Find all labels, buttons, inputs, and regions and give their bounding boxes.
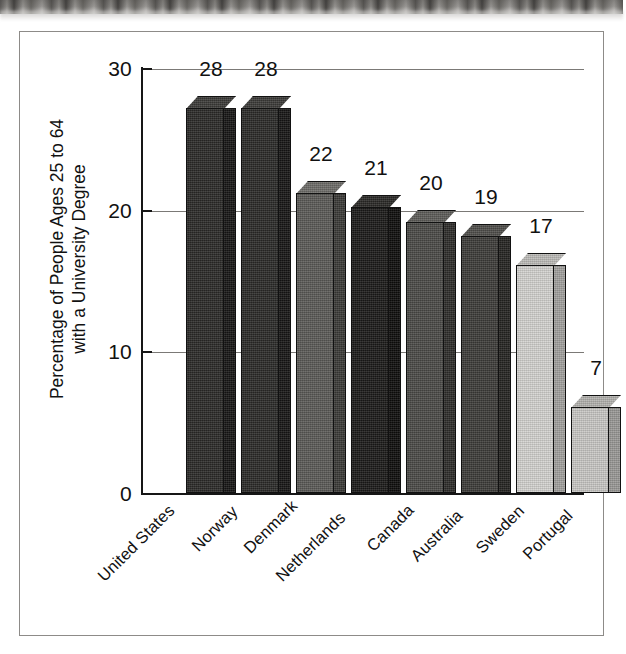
bar-side-face xyxy=(554,265,566,493)
bar-chart-plot-area: 30 20 10 0 Percentage of People Ages 25 … xyxy=(20,32,605,637)
y-tick-20 xyxy=(141,210,152,212)
bar-front-face xyxy=(571,407,609,493)
bar-front-face xyxy=(351,207,389,493)
bar-front-face xyxy=(296,193,334,493)
y-axis-title: Percentage of People Ages 25 to 64 with … xyxy=(46,59,90,459)
bar-norway xyxy=(241,32,291,493)
bar-front-face xyxy=(241,108,279,493)
bar-side-face xyxy=(334,193,346,493)
category-label-canada: Canada xyxy=(363,501,418,556)
category-label-denmark: Denmark xyxy=(240,496,301,557)
bar-sweden xyxy=(516,32,566,493)
bar-side-face xyxy=(224,108,236,493)
bar-portugal xyxy=(571,32,621,493)
y-axis-line xyxy=(141,67,143,495)
bar-value-united-states: 28 xyxy=(181,58,241,79)
bar-side-face xyxy=(389,207,401,493)
bar-value-sweden: 17 xyxy=(511,215,571,236)
bar-value-australia: 19 xyxy=(456,186,516,207)
bar-value-norway: 28 xyxy=(236,58,296,79)
y-tick-30 xyxy=(141,68,152,70)
x-axis-line xyxy=(141,493,584,495)
y-tick-10 xyxy=(141,351,152,353)
bar-value-portugal: 7 xyxy=(566,357,626,378)
bar-front-face xyxy=(461,236,499,493)
bar-australia xyxy=(461,32,511,493)
bar-value-denmark: 22 xyxy=(291,143,351,164)
bar-front-face xyxy=(406,222,444,493)
bar-front-face xyxy=(186,108,224,493)
bar-front-face xyxy=(516,265,554,493)
bar-value-canada: 20 xyxy=(401,172,461,193)
bar-canada xyxy=(406,32,456,493)
y-tick-label-0: 0 xyxy=(80,483,132,504)
bar-netherlands xyxy=(351,32,401,493)
figure-frame: 30 20 10 0 Percentage of People Ages 25 … xyxy=(19,31,604,636)
bar-value-netherlands: 21 xyxy=(346,157,406,178)
bar-side-face xyxy=(609,407,621,493)
scan-artifact-strip xyxy=(0,0,623,14)
bar-united-states xyxy=(186,32,236,493)
bar-side-face xyxy=(444,222,456,493)
category-label-norway: Norway xyxy=(188,502,241,555)
bar-side-face xyxy=(499,236,511,493)
bar-denmark xyxy=(296,32,346,493)
category-label-united-states: United States xyxy=(94,501,178,585)
bar-side-face xyxy=(279,108,291,493)
